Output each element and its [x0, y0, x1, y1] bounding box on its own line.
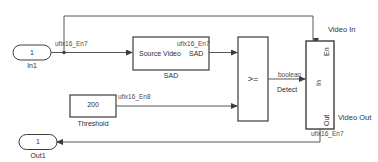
inport-label: In1 [13, 62, 51, 69]
signal-label-threshold-to-compare: ufix16_En8 [118, 94, 151, 101]
video-out-annotation: Video Out [338, 114, 371, 122]
compare-operator: >= [238, 75, 268, 84]
subsystem-port-in-label: In [315, 80, 322, 86]
subsystem-port-out-label: Out [323, 115, 330, 126]
compare-block-name: Detect [277, 86, 297, 93]
outport-number: 1 [19, 138, 57, 145]
signal-label-sad-to-compare: ufix16_En7 [177, 41, 210, 48]
threshold-block-name: Threshold [62, 120, 124, 127]
threshold-value: 200 [70, 101, 116, 108]
sad-output-port-label: SAD [189, 50, 203, 57]
signal-label-in1-to-sad: ufix16_En7 [55, 41, 88, 48]
subsystem-port-en-label: En [323, 47, 330, 56]
signal-label-subsystem-to-out1: ufix16_En7 [311, 131, 344, 138]
inport-number: 1 [13, 49, 51, 56]
video-in-annotation: Video In [328, 26, 355, 34]
outport-label: Out1 [19, 152, 57, 159]
signal-label-compare-boolean: boolean [278, 72, 301, 79]
wire-subsystem-to-out1 [57, 129, 320, 142]
simulink-diagram-canvas: 1 In1 ufix16_En7 Source Video SAD SAD uf… [0, 0, 378, 162]
sad-input-port-label: Source Video [139, 50, 181, 57]
sad-block-name: SAD [133, 72, 209, 79]
